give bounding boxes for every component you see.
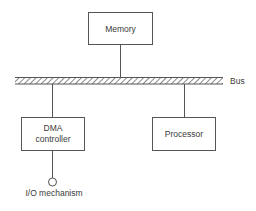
io-terminal-icon [49, 178, 57, 186]
memory-node: Memory [89, 13, 153, 45]
dma-bus-diagram: Memory Bus DMA controller I/O mechanism … [0, 0, 256, 211]
dma-controller-node: DMA controller [22, 118, 85, 151]
bus-label: Bus [230, 76, 245, 86]
io-mechanism-label: I/O mechanism [25, 188, 82, 198]
dma-label-line1: DMA [44, 123, 63, 133]
processor-label: Processor [165, 129, 203, 139]
processor-node: Processor [153, 118, 216, 151]
dma-label-line2: controller [36, 134, 71, 144]
memory-label: Memory [105, 24, 136, 34]
bus-bar [15, 78, 223, 85]
bus: Bus [15, 76, 245, 86]
